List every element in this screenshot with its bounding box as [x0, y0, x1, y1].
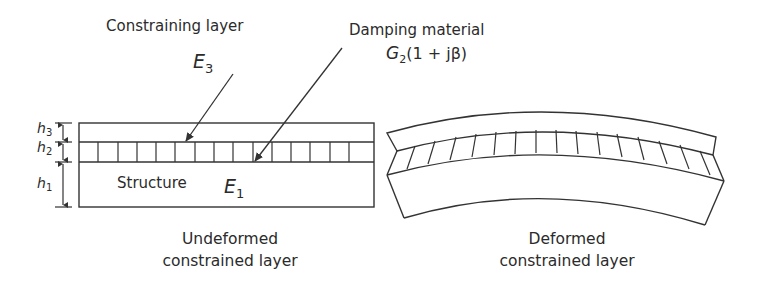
h3-label: h3 [37, 121, 52, 138]
deformed-damping-hatching [407, 130, 710, 175]
h3-subscript: 3 [46, 127, 52, 138]
undeformed-caption-line1: Undeformed [162, 228, 297, 250]
deformed-damping-layer-bottom [387, 155, 724, 181]
e1-label: E1 [224, 177, 244, 200]
h1-label: h1 [37, 176, 52, 193]
e3-pointer-arrow [186, 74, 233, 141]
e3-symbol: E [193, 50, 205, 72]
structure-label: Structure [117, 176, 187, 191]
undeformed-caption-line2: constrained layer [162, 250, 297, 272]
damping-formula-rest: (1 + jβ) [406, 44, 467, 63]
diagram-drawing [0, 0, 763, 288]
deformed-caption-line2: constrained layer [499, 250, 634, 272]
e1-subscript: 1 [236, 186, 244, 201]
undeformed-caption: Undeformed constrained layer [162, 228, 297, 272]
h3-symbol: h [37, 120, 46, 136]
deformed-caption-line1: Deformed [499, 228, 634, 250]
e3-subscript: 3 [205, 61, 213, 76]
damping-hatching [98, 142, 349, 162]
g2-symbol: G [386, 43, 399, 63]
h1-symbol: h [37, 175, 46, 191]
e1-symbol: E [224, 175, 236, 197]
e3-label: E3 [193, 52, 213, 75]
h2-subscript: 2 [46, 146, 52, 157]
damping-formula: G2(1 + jβ) [386, 45, 467, 65]
h1-subscript: 1 [46, 182, 52, 193]
deformed-constraining-layer [387, 112, 716, 155]
constraining-layer-label: Constraining layer [106, 19, 243, 34]
damping-pointer-arrow [255, 48, 342, 161]
deformed-caption: Deformed constrained layer [499, 228, 634, 272]
deformed-beam [387, 112, 724, 225]
h2-symbol: h [37, 139, 46, 155]
damping-material-label: Damping material [349, 23, 484, 38]
dimension-markers [55, 123, 72, 207]
h2-label: h2 [37, 140, 52, 157]
deformed-structure-bottom [404, 199, 705, 225]
